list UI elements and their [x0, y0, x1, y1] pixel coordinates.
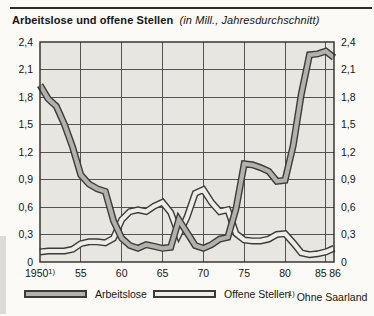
svg-text:1,8: 1,8: [341, 91, 356, 103]
svg-text:80: 80: [279, 267, 291, 279]
footnote-text: Ohne Saarland: [297, 291, 368, 303]
legend: Arbeitslose Offene Stellen 1)Ohne Saarla…: [0, 287, 374, 303]
svg-text:0: 0: [27, 256, 33, 268]
legend-item-arbeitslose: Arbeitslose: [24, 287, 147, 301]
svg-text:0,3: 0,3: [341, 228, 356, 240]
svg-text:2,4: 2,4: [18, 36, 33, 48]
page: Arbeitslose und offene Stellen (in Mill.…: [0, 0, 374, 316]
legend-label-offene-stellen: Offene Stellen: [224, 288, 290, 300]
footnote-marker: 1): [288, 289, 295, 298]
top-divider: [10, 7, 372, 9]
svg-text:70: 70: [197, 267, 209, 279]
svg-text:55: 55: [75, 267, 87, 279]
svg-text:1,5: 1,5: [341, 118, 356, 130]
legend-footnote: 1)Ohne Saarland: [288, 287, 367, 301]
svg-text:75: 75: [238, 267, 250, 279]
svg-text:0,9: 0,9: [18, 173, 33, 185]
legend-item-offene-stellen: Offene Stellen: [153, 287, 290, 301]
svg-text:1,2: 1,2: [341, 146, 356, 158]
svg-text:85: 85: [315, 267, 327, 279]
x-axis-labels: 19501)5560657075808586: [25, 267, 341, 280]
svg-text:0,6: 0,6: [341, 201, 356, 213]
chart-title-row: Arbeitslose und offene Stellen (in Mill.…: [12, 14, 319, 26]
svg-text:2,1: 2,1: [18, 63, 33, 75]
svg-text:19501): 19501): [25, 267, 56, 280]
scan-edge-artifact: [0, 236, 6, 314]
arbeitslose-swatch: [24, 290, 87, 298]
svg-text:0,3: 0,3: [18, 228, 33, 240]
chart-subtitle: (in Mill., Jahresdurchschnitt): [179, 14, 319, 26]
chart-title: Arbeitslose und offene Stellen: [12, 14, 173, 26]
svg-text:2,1: 2,1: [341, 63, 356, 75]
svg-text:1,2: 1,2: [18, 146, 33, 158]
chart-svg: 000,30,30,60,60,90,91,21,21,51,51,81,82,…: [0, 30, 374, 282]
svg-text:1,8: 1,8: [18, 91, 33, 103]
svg-text:86: 86: [329, 267, 341, 279]
svg-text:60: 60: [116, 267, 128, 279]
svg-text:1,5: 1,5: [18, 118, 33, 130]
offene-stellen-swatch: [153, 290, 216, 298]
legend-label-arbeitslose: Arbeitslose: [95, 288, 147, 300]
svg-text:0,6: 0,6: [18, 201, 33, 213]
svg-text:0,9: 0,9: [341, 173, 356, 185]
svg-text:65: 65: [157, 267, 169, 279]
svg-text:2,4: 2,4: [341, 36, 356, 48]
svg-text:0: 0: [341, 256, 347, 268]
